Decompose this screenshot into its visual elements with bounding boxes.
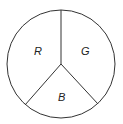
sector-label-r: R: [34, 46, 42, 57]
divider-left: [25, 64, 61, 105]
sector-label-b: B: [58, 92, 65, 103]
circle-diagram: [0, 0, 123, 124]
sector-label-g: G: [81, 46, 90, 57]
rgb-sector-diagram: R G B: [0, 0, 123, 124]
divider-right: [61, 64, 98, 104]
